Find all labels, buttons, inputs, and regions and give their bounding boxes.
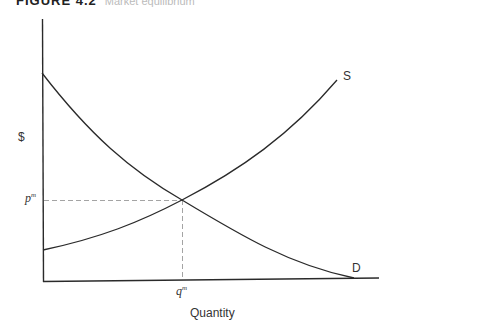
price-superscript: m — [31, 191, 36, 199]
supply-demand-chart — [0, 0, 479, 333]
supply-label: S — [343, 70, 351, 82]
y-axis-label: $ — [18, 131, 25, 143]
x-axis — [43, 278, 379, 282]
equilibrium-price-label: pm — [25, 192, 36, 204]
demand-label: D — [352, 262, 361, 274]
equilibrium-quantity-label: qm — [176, 285, 187, 297]
quantity-superscript: m — [182, 284, 187, 292]
x-axis-label: Quantity — [190, 307, 235, 319]
y-axis — [43, 19, 44, 282]
supply-curve — [43, 80, 337, 250]
demand-curve — [42, 73, 354, 278]
